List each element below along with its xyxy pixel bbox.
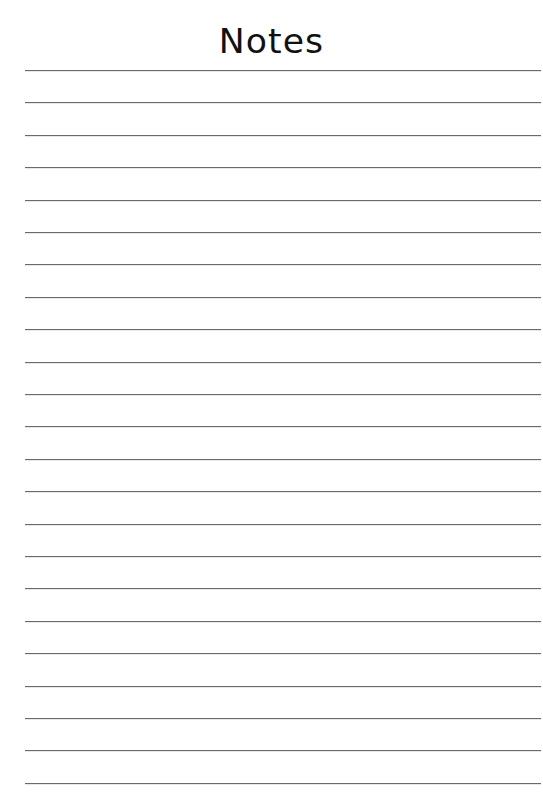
ruled-line [25,297,541,298]
ruled-line [25,718,541,719]
ruled-line [25,232,541,233]
ruled-line [25,362,541,363]
ruled-line [25,621,541,622]
ruled-line [25,200,541,201]
ruled-lines [0,0,543,811]
ruled-line [25,426,541,427]
ruled-line [25,70,541,71]
ruled-line [25,524,541,525]
ruled-line [25,491,541,492]
ruled-line [25,750,541,751]
ruled-line [25,167,541,168]
ruled-line [25,556,541,557]
ruled-line [25,264,541,265]
ruled-line [25,783,541,784]
notes-page: Notes [0,0,543,811]
ruled-line [25,588,541,589]
ruled-line [25,329,541,330]
ruled-line [25,686,541,687]
ruled-line [25,394,541,395]
ruled-line [25,102,541,103]
ruled-line [25,135,541,136]
ruled-line [25,653,541,654]
ruled-line [25,459,541,460]
